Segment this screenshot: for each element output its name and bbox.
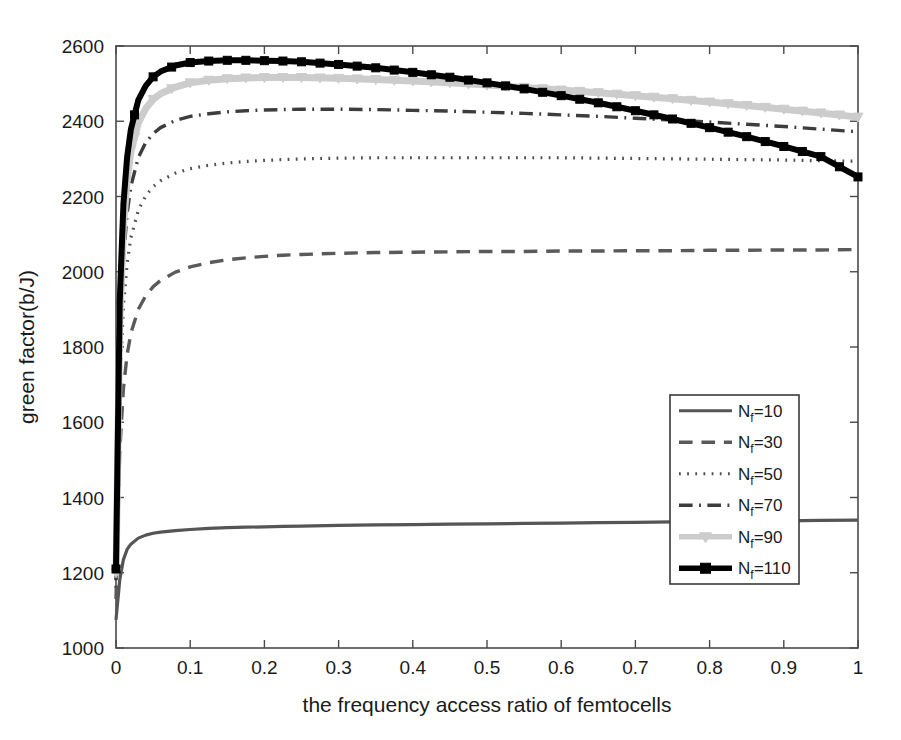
series-marker [168, 63, 176, 71]
chart-canvas: 00.10.20.30.40.50.60.70.80.9110001200140… [0, 0, 901, 740]
x-tick-label: 0.1 [177, 657, 203, 678]
x-axis-label: the frequency access ratio of femtocells [303, 693, 672, 716]
series-marker [186, 59, 194, 67]
legend-box[interactable] [670, 395, 799, 584]
series-marker [631, 107, 639, 115]
x-tick-label: 0.8 [696, 657, 722, 678]
y-tick-label: 2600 [62, 36, 104, 57]
series-marker [576, 95, 584, 103]
x-tick-label: 0.3 [325, 657, 351, 678]
y-tick-label: 1400 [62, 488, 104, 509]
series-marker [390, 66, 398, 74]
series-marker [835, 163, 843, 171]
series-marker [335, 60, 343, 68]
series-marker [613, 103, 621, 111]
series-marker [502, 82, 510, 90]
y-tick-label: 2000 [62, 262, 104, 283]
x-tick-label: 0.7 [622, 657, 648, 678]
series-marker [205, 57, 213, 65]
x-tick-label: 0.9 [771, 657, 797, 678]
series-marker [409, 68, 417, 76]
series-marker [650, 111, 658, 119]
series-marker [298, 58, 306, 66]
series-marker [353, 62, 361, 70]
series-marker [112, 565, 120, 573]
series-marker [817, 153, 825, 161]
series-marker [464, 76, 472, 84]
series-marker [594, 99, 602, 107]
series-marker [223, 56, 231, 64]
y-tick-label: 1800 [62, 337, 104, 358]
series-marker [743, 133, 751, 141]
series-marker [539, 88, 547, 96]
series-marker [724, 128, 732, 136]
x-tick-label: 0.2 [251, 657, 277, 678]
series-marker [131, 111, 139, 119]
series-marker [557, 92, 565, 100]
x-tick-label: 0.5 [474, 657, 500, 678]
series-marker [149, 73, 157, 81]
y-axis-label: green factor(b/J) [15, 270, 38, 424]
x-tick-label: 0.6 [548, 657, 574, 678]
y-tick-label: 1200 [62, 563, 104, 584]
x-tick-label: 0.4 [400, 657, 427, 678]
series-marker [780, 142, 788, 150]
y-tick-label: 1000 [62, 638, 104, 659]
series-marker [242, 56, 250, 64]
series-marker [706, 124, 714, 132]
x-tick-label: 1 [853, 657, 864, 678]
series-marker [483, 79, 491, 87]
series-marker [279, 57, 287, 65]
y-tick-label: 2200 [62, 187, 104, 208]
series-marker [798, 148, 806, 156]
legend-marker-5 [701, 563, 711, 573]
figure-container: 00.10.20.30.40.50.60.70.80.9110001200140… [0, 0, 901, 740]
series-marker [669, 115, 677, 123]
series-marker [761, 138, 769, 146]
x-tick-label: 0 [111, 657, 122, 678]
series-marker [520, 85, 528, 93]
series-marker [372, 64, 380, 72]
series-marker [446, 73, 454, 81]
series-marker [427, 71, 435, 79]
series-marker [687, 119, 695, 127]
y-tick-label: 2400 [62, 111, 104, 132]
series-marker [316, 59, 324, 67]
legend-group[interactable]: Nf=10Nf=30Nf=50Nf=70Nf=90Nf=110 [670, 395, 799, 584]
series-marker [854, 173, 862, 181]
y-tick-label: 1600 [62, 412, 104, 433]
series-marker [260, 57, 268, 65]
